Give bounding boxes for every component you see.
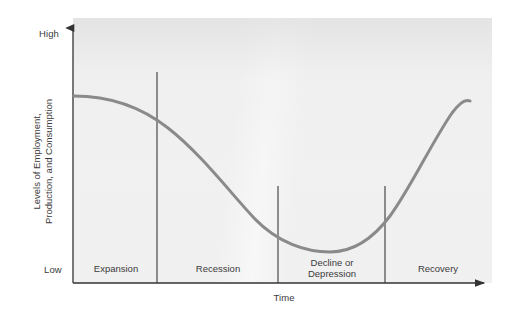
phase-label-decline-or-depression: Decline or Depression bbox=[281, 258, 383, 279]
phase-label-recession: Recession bbox=[159, 264, 277, 275]
phase-label-decline-line1: Decline or bbox=[281, 258, 383, 269]
y-axis-label-line2: Production, and Consumption bbox=[42, 77, 54, 247]
business-cycle-curve bbox=[74, 96, 470, 252]
business-cycle-figure: High Low Levels of Employment, Productio… bbox=[0, 0, 515, 317]
y-axis-label-line1: Levels of Employment, bbox=[31, 77, 43, 247]
phase-label-recovery: Recovery bbox=[388, 264, 488, 275]
phase-label-decline-line2: Depression bbox=[281, 269, 383, 280]
phase-label-expansion: Expansion bbox=[76, 264, 156, 275]
y-axis-low-tick: Low bbox=[44, 264, 62, 275]
x-axis-label: Time bbox=[264, 292, 304, 303]
y-axis-label: Levels of Employment, Production, and Co… bbox=[31, 77, 54, 247]
y-axis-high-tick: High bbox=[39, 28, 59, 39]
